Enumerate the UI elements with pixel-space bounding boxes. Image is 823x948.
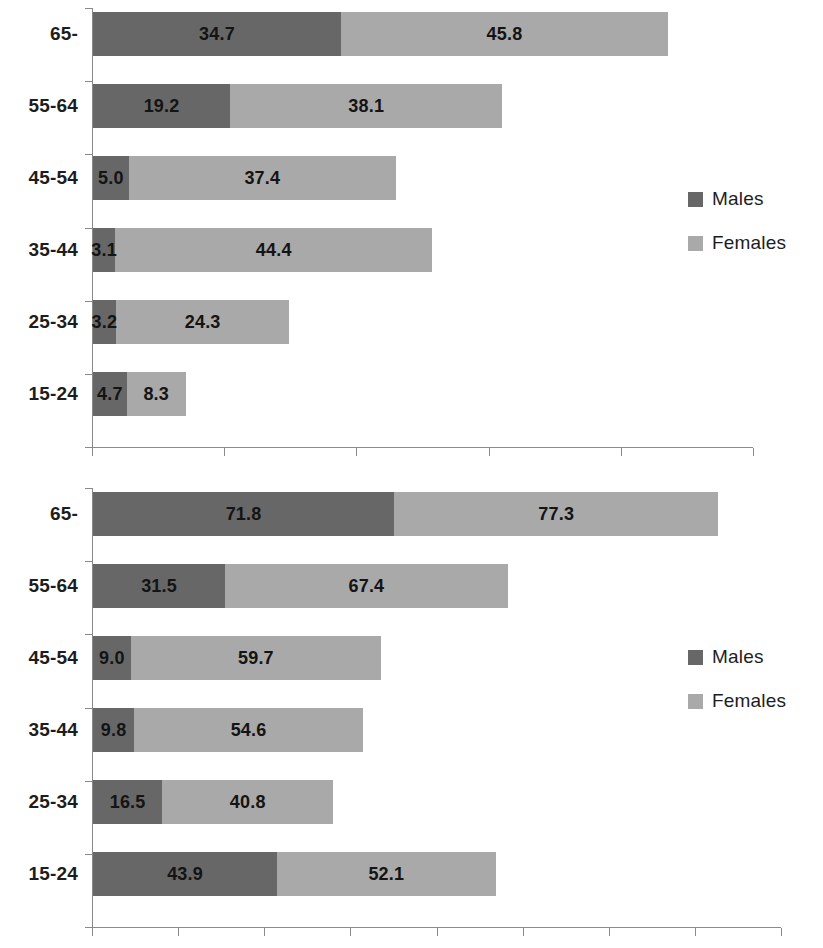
bar-segment-males: 19.2 — [93, 84, 230, 128]
stacked-bar: 31.567.4 — [93, 564, 508, 608]
bar-value-label: 43.9 — [167, 864, 203, 885]
bar-segment-males: 5.0 — [93, 156, 129, 200]
bar-value-label: 8.3 — [143, 384, 169, 405]
x-axis-tick — [356, 448, 357, 456]
bar-segment-females: 24.3 — [116, 300, 290, 344]
stacked-bar: 9.854.6 — [93, 708, 363, 752]
category-label: 45-54 — [16, 636, 78, 680]
x-axis-tick — [489, 448, 490, 456]
category-label: 25-34 — [16, 300, 78, 344]
bar-value-label: 9.0 — [99, 648, 125, 669]
bar-value-label: 9.8 — [101, 720, 127, 741]
legend-swatch-females-icon — [688, 694, 703, 709]
bar-segment-males: 9.8 — [93, 708, 134, 752]
bar-value-label: 67.4 — [349, 576, 385, 597]
x-axis-tick — [437, 928, 438, 936]
y-axis-tick — [85, 488, 92, 489]
bar-segment-females: 59.7 — [131, 636, 381, 680]
bar-segment-females: 8.3 — [127, 372, 186, 416]
legend-item-males: Males — [688, 646, 786, 668]
x-axis-tick — [621, 448, 622, 456]
stacked-bar: 43.952.1 — [93, 852, 496, 896]
chart-row: 15-2443.952.1 — [0, 852, 823, 896]
x-axis-tick — [178, 928, 179, 936]
x-axis-tick — [781, 928, 782, 936]
legend-label-males: Males — [712, 188, 764, 210]
stacked-bar: 3.144.4 — [93, 228, 432, 272]
bar-value-label: 34.7 — [199, 24, 235, 45]
legend-item-males: Males — [688, 188, 786, 210]
legend-label-females: Females — [712, 690, 786, 712]
x-axis-tick — [350, 928, 351, 936]
bar-value-label: 37.4 — [244, 168, 280, 189]
bar-segment-males: 9.0 — [93, 636, 131, 680]
category-label: 35-44 — [16, 708, 78, 752]
chart-row: 25-3416.540.8 — [0, 780, 823, 824]
x-axis-tick — [224, 448, 225, 456]
y-axis-tick — [85, 8, 92, 9]
bar-value-label: 45.8 — [487, 24, 523, 45]
category-label: 65- — [16, 492, 78, 536]
bar-segment-females: 77.3 — [394, 492, 718, 536]
category-label: 65- — [16, 12, 78, 56]
legend-top: Males Females — [688, 188, 786, 276]
x-axis-tick — [92, 928, 93, 936]
bar-value-label: 40.8 — [230, 792, 266, 813]
bar-value-label: 19.2 — [144, 96, 180, 117]
chart-row: 55-6419.238.1 — [0, 84, 823, 128]
bar-value-label: 54.6 — [231, 720, 267, 741]
chart-row: 25-343.224.3 — [0, 300, 823, 344]
bar-value-label: 3.2 — [92, 312, 118, 333]
legend-item-females: Females — [688, 690, 786, 712]
bar-segment-males: 3.1 — [93, 228, 115, 272]
legend-label-females: Females — [712, 232, 786, 254]
chart-row: 15-244.78.3 — [0, 372, 823, 416]
bar-segment-males: 4.7 — [93, 372, 127, 416]
bar-value-label: 77.3 — [538, 504, 574, 525]
bar-segment-females: 44.4 — [115, 228, 432, 272]
chart-row: 55-6431.567.4 — [0, 564, 823, 608]
legend-swatch-males-icon — [688, 650, 703, 665]
chart-row: 65-71.877.3 — [0, 492, 823, 536]
bar-segment-females: 37.4 — [129, 156, 396, 200]
x-axis-tick — [264, 928, 265, 936]
bar-value-label: 38.1 — [348, 96, 384, 117]
x-axis-tick — [92, 448, 93, 456]
legend-item-females: Females — [688, 232, 786, 254]
bar-value-label: 16.5 — [110, 792, 146, 813]
stacked-bar: 9.059.7 — [93, 636, 381, 680]
bar-segment-females: 38.1 — [230, 84, 502, 128]
chart-panel-top: 65-34.745.855-6419.238.145-545.037.435-4… — [0, 0, 823, 470]
category-label: 45-54 — [16, 156, 78, 200]
bar-value-label: 59.7 — [238, 648, 274, 669]
legend-swatch-males-icon — [688, 192, 703, 207]
bar-value-label: 24.3 — [185, 312, 221, 333]
bar-segment-males: 34.7 — [93, 12, 341, 56]
bar-segment-males: 43.9 — [93, 852, 277, 896]
bar-value-label: 31.5 — [141, 576, 177, 597]
stacked-bar: 3.224.3 — [93, 300, 289, 344]
stacked-bar: 19.238.1 — [93, 84, 502, 128]
y-axis-tick — [85, 561, 92, 562]
stacked-bar: 16.540.8 — [93, 780, 333, 824]
bar-value-label: 52.1 — [368, 864, 404, 885]
stacked-bar: 4.78.3 — [93, 372, 186, 416]
bar-segment-males: 16.5 — [93, 780, 162, 824]
category-label: 55-64 — [16, 564, 78, 608]
legend-swatch-females-icon — [688, 236, 703, 251]
bar-value-label: 4.7 — [97, 384, 123, 405]
y-axis-tick — [85, 447, 92, 448]
x-axis-tick — [753, 448, 754, 456]
category-label: 15-24 — [16, 372, 78, 416]
category-label: 15-24 — [16, 852, 78, 896]
bar-segment-females: 54.6 — [134, 708, 363, 752]
legend-label-males: Males — [712, 646, 764, 668]
bar-value-label: 5.0 — [98, 168, 124, 189]
bar-segment-females: 40.8 — [162, 780, 333, 824]
bar-segment-males: 71.8 — [93, 492, 394, 536]
category-label: 35-44 — [16, 228, 78, 272]
bar-segment-males: 3.2 — [93, 300, 116, 344]
bar-value-label: 71.8 — [226, 504, 262, 525]
stacked-bar: 71.877.3 — [93, 492, 718, 536]
category-label: 55-64 — [16, 84, 78, 128]
